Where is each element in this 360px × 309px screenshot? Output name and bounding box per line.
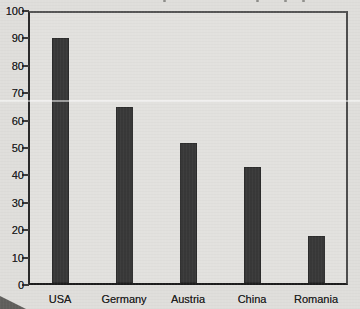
y-tick-label: 0 — [0, 279, 24, 291]
cropped-title-remnant — [163, 0, 166, 2]
y-tick-label: 50 — [0, 142, 24, 154]
y-tick-label: 80 — [0, 60, 24, 72]
cropped-title-remnant — [284, 0, 287, 2]
bar-china — [244, 167, 261, 283]
bar-romania — [308, 236, 325, 283]
y-tick-label: 40 — [0, 169, 24, 181]
bar-usa — [52, 38, 69, 283]
y-tick-label: 20 — [0, 224, 24, 236]
y-tick-label: 60 — [0, 115, 24, 127]
cropped-title-remnant — [302, 0, 305, 2]
y-tick-label: 90 — [0, 32, 24, 44]
y-tick-label: 10 — [0, 252, 24, 264]
y-tick-label: 30 — [0, 197, 24, 209]
cropped-title-remnant — [256, 0, 259, 2]
x-tick-label-romania: Romania — [274, 293, 358, 306]
bar-chart-figure: 0102030405060708090100 USAGermanyAustria… — [0, 0, 360, 309]
bar-austria — [180, 143, 197, 283]
y-tick-label: 100 — [0, 5, 24, 17]
y-tick-label: 70 — [0, 87, 24, 99]
bar-germany — [116, 107, 133, 283]
